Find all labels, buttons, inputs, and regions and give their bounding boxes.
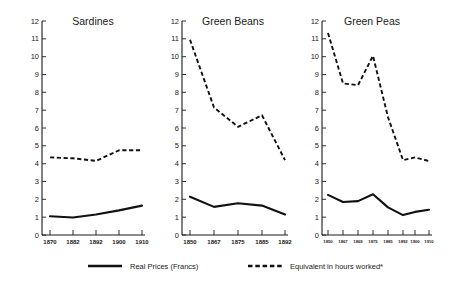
series-real-prices-sardines — [50, 206, 142, 218]
series-real-prices-green-beans — [190, 197, 285, 215]
y-tick-label: 5 — [175, 141, 179, 150]
series-hours-worked-sardines — [50, 150, 142, 161]
y-tick-label: 12 — [31, 17, 39, 26]
x-axis-sardines: 1870 1882 1892 1900 1910 — [42, 230, 149, 245]
x-tick-label: 1910 — [424, 239, 434, 244]
x-tick-label: 1892 — [89, 239, 103, 245]
series-hours-worked-green-beans — [190, 40, 285, 160]
legend-label-real-prices: Real Prices (Francs) — [130, 262, 199, 271]
y-tick-label: 3 — [175, 177, 179, 186]
x-tick-label: 1867 — [338, 239, 348, 244]
y-tick-marks — [182, 21, 186, 235]
y-tick-label: 0 — [175, 231, 179, 240]
x-axis-green-peas: 1850 1867 1869 1875 1885 1892 1900 1910 — [322, 230, 434, 244]
panel-green-peas: Green Peas 0 1 2 3 4 — [311, 15, 435, 244]
y-tick-label: 11 — [311, 34, 319, 43]
y-tick-label: 3 — [35, 177, 39, 186]
y-tick-label: 2 — [35, 195, 39, 204]
x-tick-label: 1910 — [135, 239, 149, 245]
y-tick-label: 2 — [175, 195, 179, 204]
y-tick-label: 7 — [175, 106, 179, 115]
series-hours-worked-green-peas — [328, 33, 429, 161]
legend-item-hours-worked: Equivalent in hours worked* — [248, 262, 383, 271]
x-tick-label: 1870 — [43, 239, 57, 245]
legend-item-real-prices: Real Prices (Francs) — [88, 262, 199, 271]
x-tick-label: 1892 — [278, 239, 292, 245]
y-tick-label: 1 — [35, 213, 39, 222]
y-tick-label: 6 — [175, 124, 179, 133]
y-tick-label: 0 — [315, 231, 319, 240]
panel-title-green-peas: Green Peas — [344, 15, 400, 27]
y-tick-label: 8 — [315, 88, 319, 97]
y-tick-label: 6 — [35, 124, 39, 133]
x-tick-label: 1850 — [323, 239, 333, 244]
y-tick-label: 10 — [31, 52, 39, 61]
y-tick-label: 6 — [315, 124, 319, 133]
multi-panel-line-chart: Sardines 0 1 2 3 4 5 — [0, 0, 450, 286]
y-tick-label: 2 — [315, 195, 319, 204]
legend-label-hours-worked: Equivalent in hours worked* — [290, 262, 383, 271]
x-tick-label: 1882 — [66, 239, 80, 245]
y-tick-label: 1 — [315, 213, 319, 222]
x-tick-label: 1875 — [231, 239, 245, 245]
y-tick-label: 11 — [31, 34, 39, 43]
panel-sardines: Sardines 0 1 2 3 4 5 — [31, 15, 150, 245]
y-tick-label: 4 — [315, 159, 319, 168]
y-axis-green-peas: 0 1 2 3 4 5 6 7 8 9 10 11 12 — [311, 17, 326, 240]
y-tick-label: 3 — [315, 177, 319, 186]
y-axis-sardines: 0 1 2 3 4 5 6 7 8 9 10 11 12 — [31, 17, 46, 240]
y-tick-label: 9 — [35, 70, 39, 79]
y-tick-label: 7 — [35, 106, 39, 115]
x-tick-label: 1885 — [383, 239, 393, 244]
x-tick-label: 1875 — [368, 239, 378, 244]
y-tick-label: 9 — [315, 70, 319, 79]
chart-legend: Real Prices (Francs) Equivalent in hours… — [88, 262, 383, 271]
y-tick-label: 7 — [315, 106, 319, 115]
y-tick-label: 12 — [171, 17, 179, 26]
x-tick-label: 1885 — [255, 239, 269, 245]
y-tick-label: 10 — [171, 52, 179, 61]
y-tick-marks — [42, 21, 46, 235]
y-tick-label: 4 — [35, 159, 39, 168]
y-tick-label: 4 — [175, 159, 179, 168]
y-tick-label: 5 — [315, 141, 319, 150]
x-tick-label: 1900 — [112, 239, 126, 245]
panel-title-green-beans: Green Beans — [202, 15, 264, 27]
y-tick-label: 12 — [311, 17, 319, 26]
y-tick-label: 11 — [171, 34, 179, 43]
y-tick-label: 5 — [35, 141, 39, 150]
x-tick-label: 1892 — [398, 239, 408, 244]
y-tick-label: 1 — [175, 213, 179, 222]
y-tick-label: 10 — [311, 52, 319, 61]
x-tick-label: 1867 — [207, 239, 221, 245]
y-axis-green-beans: 0 1 2 3 4 5 6 7 8 9 10 11 12 — [171, 17, 186, 240]
y-tick-label: 0 — [35, 231, 39, 240]
x-tick-label: 1850 — [183, 239, 197, 245]
x-axis-green-beans: 1850 1867 1875 1885 1892 — [182, 230, 292, 245]
panel-green-beans: Green Beans 0 1 2 3 4 — [171, 15, 293, 245]
x-tick-label: 1869 — [353, 239, 363, 244]
y-tick-label: 8 — [35, 88, 39, 97]
y-tick-label: 9 — [175, 70, 179, 79]
panel-title-sardines: Sardines — [72, 15, 113, 27]
y-tick-marks — [322, 21, 326, 235]
y-tick-label: 8 — [175, 88, 179, 97]
x-tick-label: 1900 — [410, 239, 420, 244]
series-real-prices-green-peas — [328, 194, 429, 215]
